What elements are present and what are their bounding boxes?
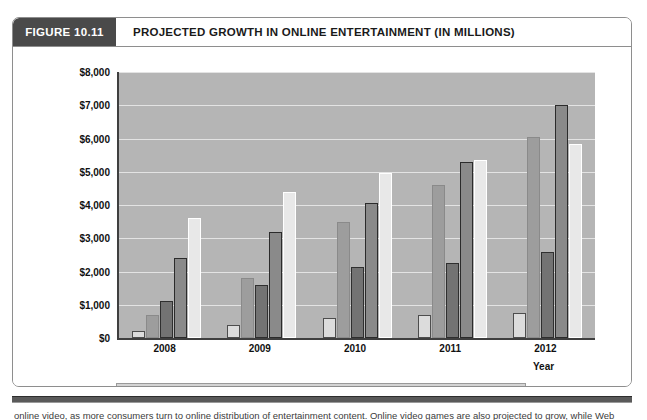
bar — [160, 301, 173, 338]
bar-group-2010 — [309, 72, 404, 338]
y-axis-tick-label: $4,000 — [79, 200, 110, 211]
figure-number-badge: FIGURE 10.11 — [13, 18, 116, 46]
legend-item: Online Music — [447, 386, 517, 387]
legend-swatch-icon — [125, 387, 135, 388]
legend-swatch-icon — [279, 387, 289, 388]
plot-area — [117, 72, 595, 340]
y-axis-tick-label: $5,000 — [79, 166, 110, 177]
x-axis-title: Year — [533, 361, 554, 372]
y-axis-tick-label: $8,000 — [79, 67, 110, 78]
bar-group-2012 — [500, 72, 595, 338]
y-axis-labels: $0$1,000$2,000$3,000$4,000$5,000$6,000$7… — [46, 72, 116, 338]
bar — [351, 267, 364, 338]
bar — [188, 218, 201, 338]
bar — [513, 313, 526, 338]
x-axis-labels: 20082009201020112012 — [117, 343, 593, 354]
bar — [241, 278, 254, 338]
bar-group-2008 — [119, 72, 214, 338]
legend-label: Online Video — [139, 386, 194, 387]
legend-swatch-icon — [199, 387, 209, 388]
legend-swatch-icon — [447, 387, 457, 388]
chart-legend: Online VideoInternet RadioOnline TVOnlin… — [116, 383, 526, 387]
figure-panel: FIGURE 10.11 PROJECTED GROWTH IN ONLINE … — [12, 17, 632, 387]
bar — [132, 331, 145, 338]
figure-title: PROJECTED GROWTH IN ONLINE ENTERTAINMENT… — [116, 18, 631, 46]
footer-divider — [12, 396, 632, 403]
bar — [255, 285, 268, 338]
bar — [460, 162, 473, 338]
legend-item: Online TV — [279, 386, 335, 387]
legend-label: Online TV — [293, 386, 335, 387]
legend-label: Online Video Games — [354, 386, 441, 387]
legend-swatch-icon — [340, 387, 350, 388]
bar — [555, 105, 568, 338]
legend-item: Online Video — [125, 386, 194, 387]
bar — [527, 137, 540, 338]
bar — [146, 315, 159, 338]
y-axis-tick-label: $0 — [99, 333, 110, 344]
bar — [269, 232, 282, 338]
bar — [365, 203, 378, 338]
bar — [541, 252, 554, 338]
bar — [337, 222, 350, 338]
y-axis-tick-label: $7,000 — [79, 100, 110, 111]
bar — [418, 315, 431, 338]
y-axis-tick-label: $1,000 — [79, 299, 110, 310]
y-axis-tick-label: $2,000 — [79, 266, 110, 277]
x-axis-tick-label: 2008 — [117, 343, 212, 354]
figure-screenshot: FIGURE 10.11 PROJECTED GROWTH IN ONLINE … — [0, 0, 647, 420]
x-axis-tick-label: 2011 — [403, 343, 498, 354]
x-axis-tick-label: 2012 — [498, 343, 593, 354]
legend-item: Online Video Games — [340, 386, 441, 387]
bar — [569, 144, 582, 339]
x-axis-tick-label: 2009 — [212, 343, 307, 354]
figure-header: FIGURE 10.11 PROJECTED GROWTH IN ONLINE … — [13, 18, 631, 47]
bar-group-2011 — [405, 72, 500, 338]
legend-label: Online Music — [461, 386, 517, 387]
x-axis-tick-label: 2010 — [307, 343, 402, 354]
bar — [227, 325, 240, 338]
chart-body: $0$1,000$2,000$3,000$4,000$5,000$6,000$7… — [13, 47, 631, 386]
bar — [446, 263, 459, 338]
legend-label: Internet Radio — [213, 386, 274, 387]
bar — [432, 185, 445, 338]
bar-groups — [119, 72, 595, 338]
bar — [174, 258, 187, 338]
bar — [323, 318, 336, 338]
figure-caption: online video, as more consumers turn to … — [14, 410, 632, 420]
y-axis-tick-label: $6,000 — [79, 133, 110, 144]
bar — [379, 173, 392, 338]
y-axis-tick-label: $3,000 — [79, 233, 110, 244]
bar-group-2009 — [214, 72, 309, 338]
bar — [283, 192, 296, 338]
bar — [474, 160, 487, 338]
legend-item: Internet Radio — [199, 386, 274, 387]
